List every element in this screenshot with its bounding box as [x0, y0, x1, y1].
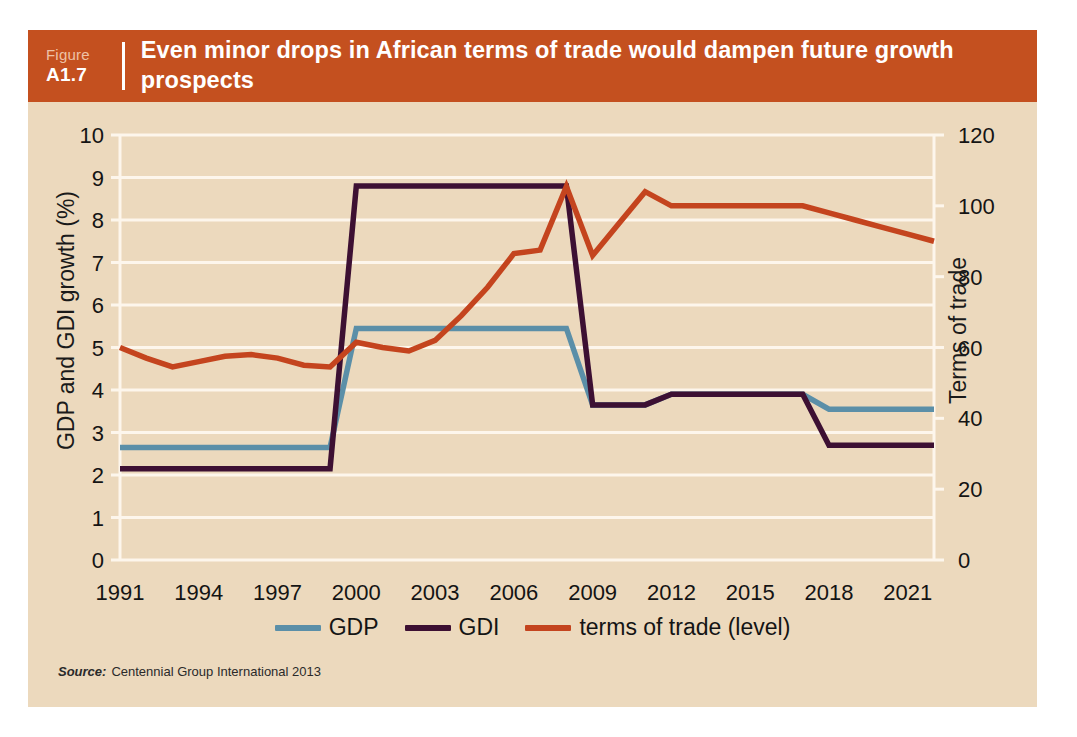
- y-axis-left-ticks: 012345678910: [80, 123, 120, 573]
- svg-text:4: 4: [92, 378, 104, 403]
- gridlines: [120, 135, 934, 560]
- svg-text:0: 0: [958, 548, 970, 573]
- svg-text:2006: 2006: [489, 580, 538, 605]
- legend-item-terms-of-trade-level[interactable]: terms of trade (level): [525, 614, 790, 641]
- line-chart: 012345678910 020406080100120 19911994199…: [28, 102, 1037, 632]
- legend-label: terms of trade (level): [579, 614, 790, 641]
- svg-text:1: 1: [92, 506, 104, 531]
- svg-text:1991: 1991: [96, 580, 145, 605]
- figure-number: A1.7: [46, 64, 120, 86]
- svg-text:9: 9: [92, 166, 104, 191]
- svg-text:2009: 2009: [568, 580, 617, 605]
- y-axis-right-title: Terms of trade: [945, 191, 972, 471]
- legend-swatch-icon: [525, 625, 571, 631]
- figure-title: Even minor drops in African terms of tra…: [141, 36, 1037, 95]
- svg-text:1994: 1994: [174, 580, 223, 605]
- legend-swatch-icon: [275, 625, 321, 631]
- svg-text:3: 3: [92, 421, 104, 446]
- chart-area: 012345678910 020406080100120 19911994199…: [28, 102, 1037, 707]
- svg-text:1997: 1997: [253, 580, 302, 605]
- svg-text:2012: 2012: [647, 580, 696, 605]
- svg-text:2021: 2021: [883, 580, 932, 605]
- svg-text:2003: 2003: [411, 580, 460, 605]
- header-divider: [122, 42, 125, 90]
- legend-item-gdp[interactable]: GDP: [275, 614, 379, 641]
- legend-label: GDI: [459, 614, 500, 641]
- plot-wrapper: 012345678910 020406080100120 19911994199…: [28, 102, 1037, 632]
- svg-text:2: 2: [92, 463, 104, 488]
- figure-label-word: Figure: [46, 46, 120, 64]
- figure-card: Figure A1.7 Even minor drops in African …: [28, 30, 1037, 707]
- legend-swatch-icon: [405, 625, 451, 631]
- source-note: Source:Centennial Group International 20…: [58, 664, 321, 679]
- y-axis-left-title: GDP and GDI growth (%): [53, 121, 80, 521]
- svg-text:5: 5: [92, 336, 104, 361]
- svg-text:20: 20: [958, 477, 982, 502]
- svg-text:0: 0: [92, 548, 104, 573]
- figure-number-block: Figure A1.7: [28, 46, 120, 86]
- svg-text:120: 120: [958, 123, 995, 148]
- svg-text:10: 10: [80, 123, 104, 148]
- source-label: Source:: [58, 664, 106, 679]
- svg-text:2000: 2000: [332, 580, 381, 605]
- legend-label: GDP: [329, 614, 379, 641]
- x-axis-ticks: 1991199419972000200320062009201220152018…: [96, 580, 933, 605]
- svg-text:6: 6: [92, 293, 104, 318]
- figure-header: Figure A1.7 Even minor drops in African …: [28, 30, 1037, 102]
- svg-text:2015: 2015: [726, 580, 775, 605]
- svg-text:2018: 2018: [804, 580, 853, 605]
- source-text: Centennial Group International 2013: [111, 664, 321, 679]
- chart-legend: GDPGDIterms of trade (level): [28, 614, 1037, 641]
- svg-text:7: 7: [92, 251, 104, 276]
- legend-item-gdi[interactable]: GDI: [405, 614, 500, 641]
- svg-text:8: 8: [92, 208, 104, 233]
- data-series: [120, 186, 934, 469]
